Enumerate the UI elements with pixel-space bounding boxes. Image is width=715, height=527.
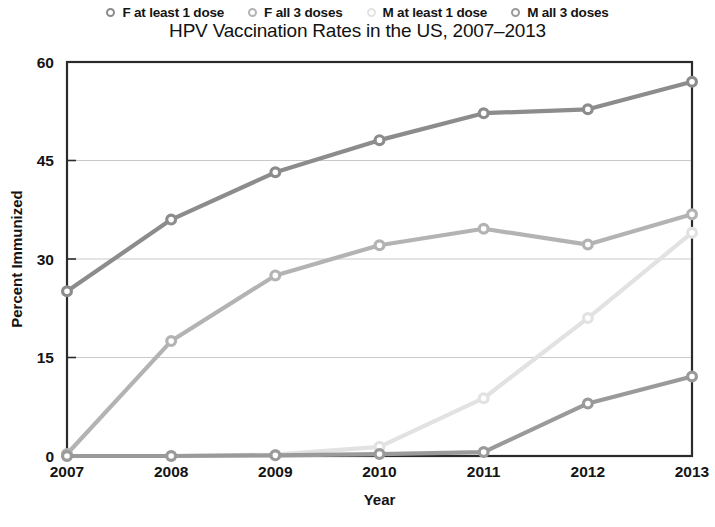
data-point[interactable] [63, 452, 72, 461]
series-line [67, 233, 692, 456]
data-point[interactable] [583, 314, 592, 323]
data-point[interactable] [375, 241, 384, 250]
x-tick-label: 2011 [467, 463, 501, 480]
data-point[interactable] [271, 271, 280, 280]
y-tick-label: 30 [37, 251, 54, 268]
data-point[interactable] [63, 287, 72, 296]
data-point[interactable] [479, 448, 488, 457]
gridlines [67, 161, 692, 358]
x-tick-label: 2008 [154, 463, 189, 480]
x-axis-ticks: 2007200820092010201120122013 [50, 463, 710, 480]
x-tick-label: 2012 [571, 463, 605, 480]
data-point[interactable] [688, 210, 697, 219]
data-point[interactable] [688, 77, 697, 86]
data-point[interactable] [167, 452, 176, 461]
plot-area: 015304560 2007200820092010201120122013 P… [0, 0, 715, 527]
y-tick-label: 0 [45, 448, 54, 465]
series-f-at-least-1-dose [63, 77, 697, 295]
data-point[interactable] [167, 337, 176, 346]
y-axis-label: Percent Immunized [8, 190, 25, 328]
series-line [67, 82, 692, 291]
data-series-group [63, 77, 697, 460]
x-tick-label: 2013 [675, 463, 710, 480]
series-f-all-3-doses [63, 210, 697, 458]
data-point[interactable] [479, 109, 488, 118]
data-point[interactable] [583, 399, 592, 408]
y-tick-label: 45 [37, 152, 55, 169]
plot-svg: 015304560 2007200820092010201120122013 P… [0, 0, 715, 527]
x-tick-label: 2007 [50, 463, 84, 480]
y-tick-label: 60 [37, 54, 54, 71]
data-point[interactable] [583, 105, 592, 114]
series-m-at-least-1-dose [63, 228, 697, 460]
x-axis-label: Year [364, 491, 396, 508]
data-point[interactable] [583, 240, 592, 249]
data-point[interactable] [479, 224, 488, 233]
data-point[interactable] [688, 372, 697, 381]
data-point[interactable] [479, 394, 488, 403]
data-point[interactable] [375, 450, 384, 459]
data-point[interactable] [688, 228, 697, 237]
data-point[interactable] [271, 168, 280, 177]
x-tick-label: 2010 [362, 463, 396, 480]
x-tick-label: 2009 [258, 463, 293, 480]
data-point[interactable] [375, 136, 384, 145]
y-axis-ticks: 015304560 [37, 54, 76, 465]
y-tick-label: 15 [37, 349, 55, 366]
data-point[interactable] [271, 451, 280, 460]
chart-container: F at least 1 dose F all 3 doses M at lea… [0, 0, 715, 527]
data-point[interactable] [167, 215, 176, 224]
